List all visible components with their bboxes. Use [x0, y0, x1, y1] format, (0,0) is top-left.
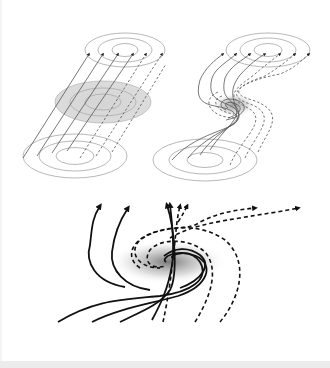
flux-tube-diagram — [0, 0, 330, 368]
dashed-line-5 — [170, 208, 298, 238]
twisted-field-lines — [172, 54, 309, 165]
diagram-canvas — [0, 0, 330, 368]
twisted-flux-tube — [153, 33, 310, 181]
shaded-cross-section — [55, 81, 151, 123]
vortex-field-lines — [58, 205, 298, 322]
untwisted-flux-tube — [23, 33, 166, 178]
vortex-core-shading — [110, 240, 226, 284]
bottom-strip — [0, 361, 330, 368]
top-rings — [85, 33, 165, 67]
bottom-rings — [23, 134, 127, 178]
